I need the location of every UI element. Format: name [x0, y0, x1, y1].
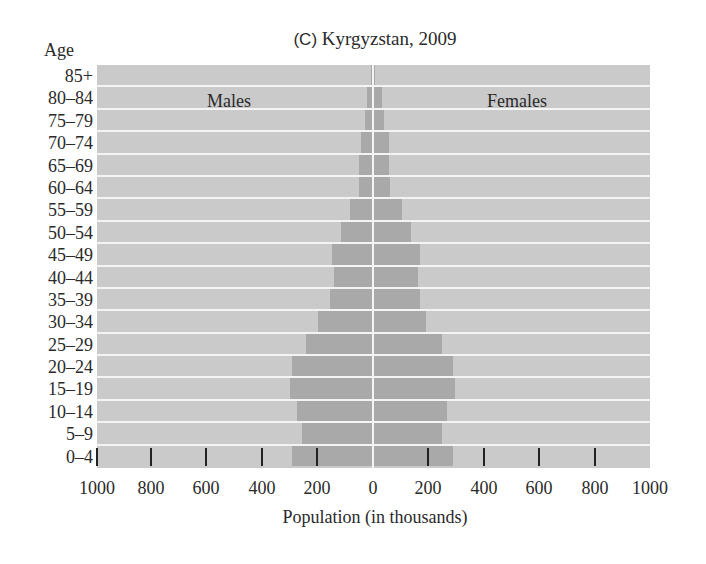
x-tick-label: 600: [176, 478, 236, 499]
male-bar: [330, 289, 372, 309]
plot-area: Males Females: [97, 65, 650, 468]
panel-letter: (C): [293, 30, 317, 49]
age-label: 75–79: [13, 110, 93, 132]
females-label: Females: [487, 91, 547, 112]
male-bar: [334, 267, 372, 287]
age-label: 20–24: [13, 356, 93, 378]
female-bar: [374, 199, 402, 219]
female-bar: [374, 132, 389, 152]
x-axis-title: Population (in thousands): [200, 507, 550, 528]
female-bar: [374, 289, 420, 309]
male-bar: [359, 177, 372, 197]
x-tick-label: 800: [121, 478, 181, 499]
female-bar: [374, 87, 382, 107]
age-label: 15–19: [13, 378, 93, 400]
male-bar: [292, 446, 372, 466]
age-label: 70–74: [13, 132, 93, 154]
male-bar: [302, 423, 372, 443]
age-label: 25–29: [13, 334, 93, 356]
female-bar: [374, 378, 455, 398]
female-bar: [374, 65, 375, 85]
male-bar: [361, 132, 372, 152]
female-bar: [374, 155, 389, 175]
age-label: 30–34: [13, 311, 93, 333]
age-label: 65–69: [13, 155, 93, 177]
center-axis-line: [372, 65, 374, 468]
age-label: 45–49: [13, 244, 93, 266]
age-label: 50–54: [13, 222, 93, 244]
female-bar: [374, 401, 447, 421]
age-label: 5–9: [13, 423, 93, 445]
male-bar: [350, 199, 372, 219]
female-bar: [374, 110, 384, 130]
female-bar: [374, 267, 418, 287]
female-bar: [374, 244, 420, 264]
age-label: 55–59: [13, 199, 93, 221]
x-tick: [150, 448, 152, 466]
x-tick-label: 800: [565, 478, 625, 499]
male-bar: [332, 244, 372, 264]
age-label: 80–84: [13, 87, 93, 109]
age-label: 0–4: [13, 446, 93, 468]
male-bar: [292, 356, 372, 376]
x-tick: [316, 448, 318, 466]
female-bar: [374, 177, 390, 197]
x-tick: [594, 448, 596, 466]
title-text: Kyrgyzstan, 2009: [322, 28, 457, 49]
female-bar: [374, 446, 453, 466]
x-tick: [205, 448, 207, 466]
x-tick: [96, 448, 98, 466]
male-bar: [306, 334, 372, 354]
x-tick-label: 400: [454, 478, 514, 499]
age-label: 40–44: [13, 267, 93, 289]
male-bar: [297, 401, 372, 421]
male-bar: [359, 155, 372, 175]
x-tick-label: 400: [232, 478, 292, 499]
x-tick-label: 0: [343, 478, 403, 499]
age-label: 10–14: [13, 401, 93, 423]
male-bar: [341, 222, 372, 242]
female-bar: [374, 356, 453, 376]
female-bar: [374, 222, 411, 242]
female-bar: [374, 334, 442, 354]
males-label: Males: [207, 91, 251, 112]
x-tick-label: 200: [287, 478, 347, 499]
x-tick-label: 600: [509, 478, 569, 499]
female-bar: [374, 423, 442, 443]
x-tick: [261, 448, 263, 466]
male-bar: [365, 110, 372, 130]
age-label: 35–39: [13, 289, 93, 311]
x-tick: [427, 448, 429, 466]
x-tick: [483, 448, 485, 466]
male-bar: [318, 311, 372, 331]
x-tick: [538, 448, 540, 466]
female-bar: [374, 311, 426, 331]
x-tick-label: 1000: [620, 478, 680, 499]
y-axis-title: Age: [44, 40, 74, 61]
age-label: 85+: [13, 65, 93, 87]
age-label: 60–64: [13, 177, 93, 199]
chart-title: (C) Kyrgyzstan, 2009: [250, 28, 500, 50]
x-tick-label: 200: [398, 478, 458, 499]
x-tick-label: 1000: [67, 478, 127, 499]
male-bar: [290, 378, 372, 398]
